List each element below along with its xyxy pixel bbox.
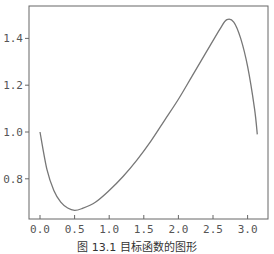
x-axis: 0.00.51.01.52.02.53.0 <box>30 215 257 236</box>
data-line <box>40 19 257 210</box>
x-tick-label: 0.0 <box>30 223 50 236</box>
y-tick-label: 1.2 <box>3 79 23 92</box>
plot-frame <box>29 6 268 219</box>
x-tick-label: 2.0 <box>168 223 188 236</box>
y-axis: 0.81.01.21.4 <box>3 32 29 185</box>
y-tick-label: 1.0 <box>3 126 23 139</box>
x-tick-label: 1.0 <box>99 223 119 236</box>
y-tick-label: 0.8 <box>3 173 23 186</box>
y-tick-label: 1.4 <box>3 32 23 45</box>
x-tick-label: 3.0 <box>238 223 258 236</box>
x-tick-label: 2.5 <box>203 223 223 236</box>
figure-caption: 图 13.1 目标函数的图形 <box>0 238 274 254</box>
x-tick-label: 0.5 <box>65 223 85 236</box>
x-tick-label: 1.5 <box>134 223 154 236</box>
